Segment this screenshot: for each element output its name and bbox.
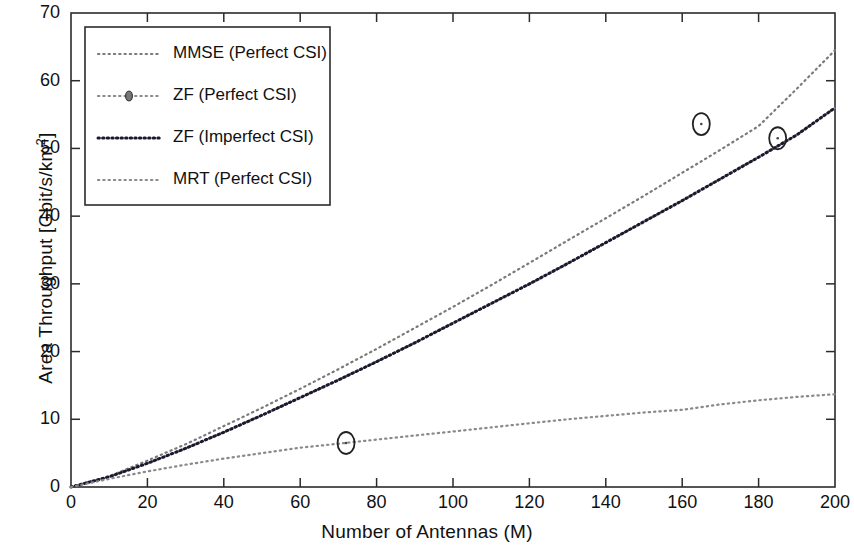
x-tick-label-200: 200 (805, 492, 854, 513)
data-point-center-0 (700, 123, 703, 126)
legend-label-0: MMSE (Perfect CSI) (173, 43, 327, 63)
x-axis-title: Number of Antennas (M) (0, 521, 854, 543)
y-tick-label-50: 50 (14, 137, 60, 158)
x-tick-label-160: 160 (652, 492, 712, 513)
y-tick-label-30: 30 (14, 273, 60, 294)
x-tick-label-20: 20 (117, 492, 177, 513)
plot-area (0, 0, 854, 552)
x-tick-label-140: 140 (576, 492, 636, 513)
y-tick-label-40: 40 (14, 205, 60, 226)
y-tick-label-0: 0 (14, 476, 60, 497)
y-tick-label-20: 20 (14, 341, 60, 362)
series-line-3 (71, 394, 835, 487)
x-tick-label-80: 80 (347, 492, 407, 513)
y-tick-label-70: 70 (14, 2, 60, 23)
y-tick-label-60: 60 (14, 70, 60, 91)
chart-figure: Number of Antennas (M) Area Throughput [… (0, 0, 854, 552)
data-point-center-1 (776, 137, 779, 140)
legend-label-2: ZF (Imperfect CSI) (173, 127, 314, 147)
x-tick-label-180: 180 (729, 492, 789, 513)
x-tick-label-120: 120 (499, 492, 559, 513)
legend-sample-marker-1 (126, 91, 133, 101)
x-tick-label-40: 40 (194, 492, 254, 513)
data-point-center-2 (345, 442, 348, 445)
x-tick-label-100: 100 (423, 492, 483, 513)
legend-label-3: MRT (Perfect CSI) (173, 169, 312, 189)
y-tick-label-10: 10 (14, 408, 60, 429)
x-tick-label-60: 60 (270, 492, 330, 513)
legend-label-1: ZF (Perfect CSI) (173, 85, 297, 105)
